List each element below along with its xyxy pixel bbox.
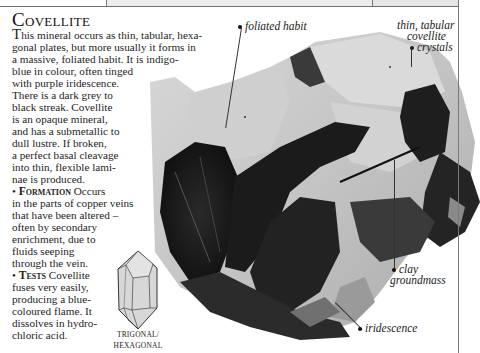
- intro-line: a perfect basal cleavage: [12, 149, 119, 161]
- formation-line: through the vein.: [12, 257, 88, 269]
- formation-line: fluids seeping: [12, 245, 74, 257]
- page-title: Covellite: [12, 10, 90, 30]
- tests-line: chloric acid.: [12, 329, 67, 341]
- intro-line: black streak. Covellite: [12, 101, 112, 113]
- bullet-dot-icon: [392, 268, 396, 272]
- drop-cap: T: [12, 26, 21, 42]
- intro-line: and has a submetallic to: [12, 125, 120, 137]
- tests-line: fuses very easily,: [12, 281, 89, 293]
- intro-line: into thin, flexible lami-: [12, 161, 116, 173]
- formation-line-0: • Formation Occurs: [12, 185, 105, 197]
- tests-line-0: • Tests Covellite: [12, 269, 90, 281]
- leader-line-thin-tabular: [411, 47, 412, 67]
- formation-line: that have been altered –: [12, 209, 118, 221]
- bullet-icon: •: [12, 185, 16, 197]
- bullet-icon: •: [12, 269, 16, 281]
- annotation-clay-groundmass-line2: groundmass: [390, 275, 446, 286]
- formation-line: enrichment, due to: [12, 233, 96, 245]
- tests-line: coloured flame. It: [12, 305, 92, 317]
- page-border-right: [458, 0, 459, 353]
- formation-line: often by secondary: [12, 221, 97, 233]
- intro-line: nae is produced.: [12, 173, 85, 185]
- bullet-dot-icon: [358, 327, 362, 331]
- crystal-system-label: HEXAGONAL: [106, 341, 170, 351]
- annotation-iridescence: iridescence: [358, 323, 417, 334]
- formation-heading: Formation: [19, 185, 71, 197]
- tests-line: producing a blue-: [12, 293, 91, 305]
- leader-line-clay-groundmass: [394, 160, 395, 270]
- annotation-thin-tabular-line3: crystals: [410, 42, 453, 53]
- annotation-foliated-habit: foliated habit: [238, 21, 307, 32]
- intro-line: blue in colour, often tinged: [12, 65, 133, 77]
- intro-line: There is a dark grey to: [12, 89, 113, 101]
- formation-line: in the parts of copper veins: [12, 197, 133, 209]
- intro-line: dull lustre. If broken,: [12, 137, 107, 149]
- covellite-specimen-image: [150, 22, 480, 342]
- intro-line: is an opaque mineral,: [12, 113, 108, 125]
- bullet-dot-icon: [238, 25, 242, 29]
- tests-line: dissolves in hydro-: [12, 317, 97, 329]
- tests-heading: Tests: [19, 269, 46, 281]
- header-divider: [0, 6, 459, 7]
- intro-line: with purple iridescence.: [12, 77, 119, 89]
- top-header-strip: [0, 0, 474, 7]
